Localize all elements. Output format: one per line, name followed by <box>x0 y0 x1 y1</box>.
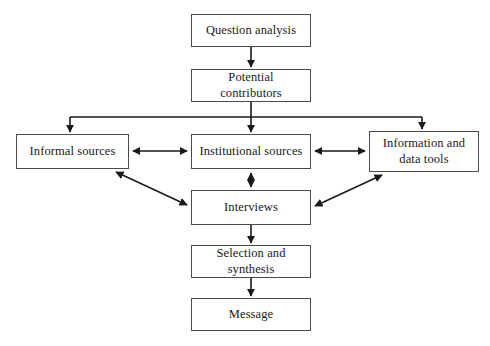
edge-informal-interviews <box>116 172 187 205</box>
node-potential-contributors: Potential contributors <box>191 69 311 102</box>
node-message: Message <box>191 298 311 331</box>
edge-interviews-infotools <box>315 175 382 206</box>
node-label: Selection and synthesis <box>192 246 310 277</box>
node-label: Informal sources <box>26 144 120 160</box>
node-label: Information and data tools <box>379 136 469 167</box>
flowchart-edges <box>0 0 490 346</box>
node-interviews: Interviews <box>191 190 311 225</box>
node-selection-and-synthesis: Selection and synthesis <box>191 245 311 278</box>
flowchart-figure: Question analysis Potential contributors… <box>0 0 490 346</box>
node-information-and-data-tools: Information and data tools <box>369 131 479 172</box>
node-institutional-sources: Institutional sources <box>191 134 311 169</box>
node-label: Institutional sources <box>195 144 306 160</box>
node-informal-sources: Informal sources <box>16 134 129 169</box>
node-label: Question analysis <box>202 23 300 39</box>
node-question-analysis: Question analysis <box>191 14 311 47</box>
node-label: Message <box>225 307 277 323</box>
node-label: Interviews <box>220 200 282 216</box>
node-label: Potential contributors <box>192 70 310 101</box>
